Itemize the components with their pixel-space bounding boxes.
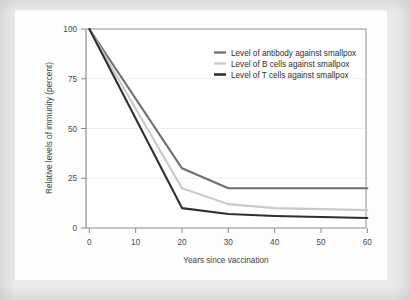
x-tick-label-10: 10: [131, 238, 141, 247]
y-tick-label-100: 100: [63, 25, 77, 34]
legend-label-antibody: Level of antibody against smallpox: [231, 49, 356, 58]
x-tick-label-40: 40: [270, 238, 280, 247]
x-axis-title: Years since vaccination: [183, 256, 269, 265]
immunity-decay-line-chart: 0 25 50 75 100 0 10 20: [16, 11, 386, 279]
x-tick-label-60: 60: [363, 238, 373, 247]
chart-legend: Level of antibody against smallpox Level…: [214, 49, 356, 80]
screenshot-root: 0 25 50 75 100 0 10 20: [0, 0, 410, 300]
legend-label-tcells: Level of T cells against smallpox: [231, 71, 349, 80]
y-tick-label-75: 75: [68, 75, 78, 84]
legend-label-bcells: Level of B cells against smallpox: [231, 60, 349, 69]
chart-svg: 0 25 50 75 100 0 10 20: [16, 11, 386, 279]
x-tick-label-0: 0: [87, 238, 92, 247]
y-axis-title: Relative levels of immunity (percent): [45, 62, 54, 194]
x-tick-label-30: 30: [224, 238, 234, 247]
x-tick-label-20: 20: [177, 238, 187, 247]
figure-card: 0 25 50 75 100 0 10 20: [16, 11, 386, 279]
y-axis-ticks: [81, 29, 86, 228]
x-axis-ticks: [89, 228, 367, 233]
y-tick-label-25: 25: [68, 174, 78, 183]
x-tick-label-50: 50: [316, 238, 326, 247]
y-tick-label-50: 50: [68, 125, 78, 134]
y-tick-label-0: 0: [72, 224, 77, 233]
